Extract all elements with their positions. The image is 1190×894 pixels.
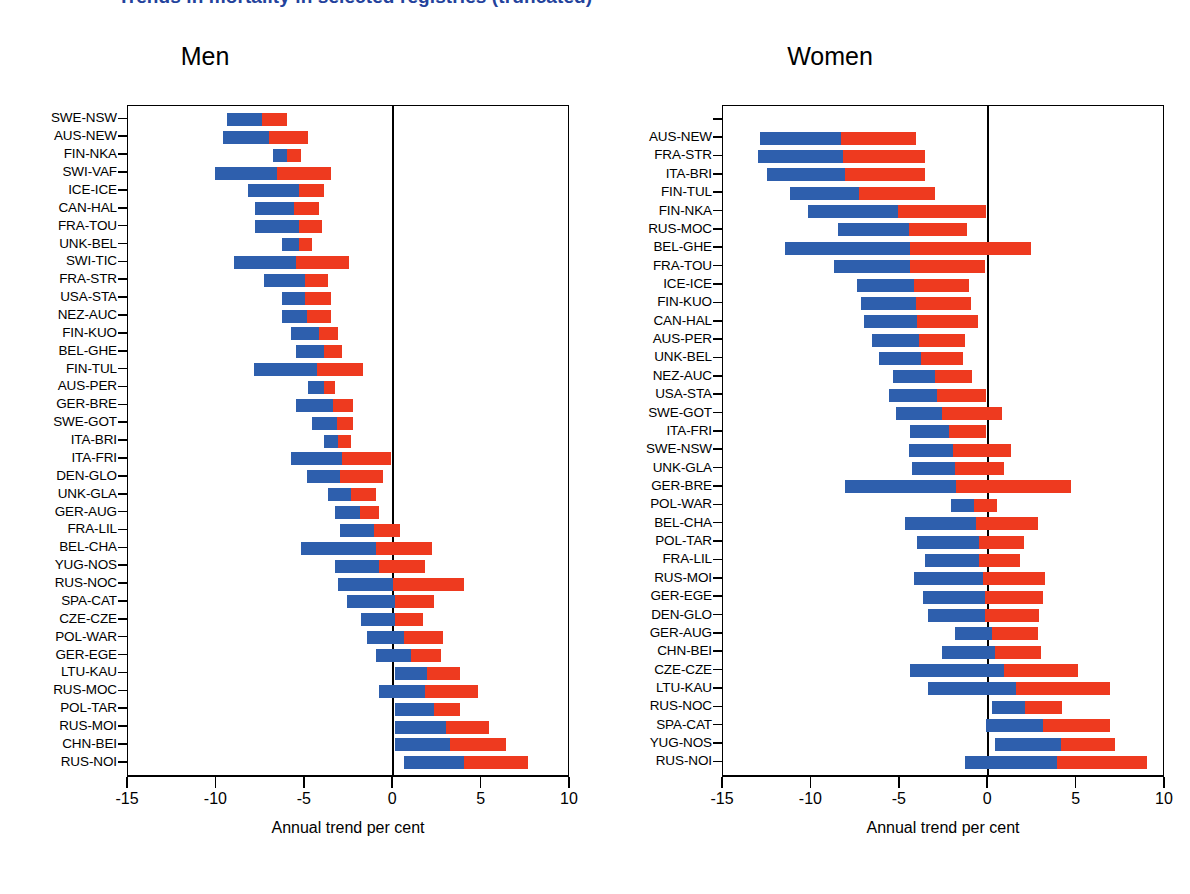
x-axis-tick-label: -15 [115,790,138,808]
bar-segment-blue [758,150,843,163]
y-axis-tick [118,582,127,584]
bar-segment-red [299,220,322,233]
bar-segment-blue [301,542,375,555]
y-axis-label: NEZ-AUC [58,308,117,321]
y-axis-tick [713,706,722,708]
y-axis-tick [118,296,127,298]
y-axis-label: RUS-MOI [59,719,117,732]
y-axis-tick [118,314,127,316]
y-axis-label: FIN-TUL [661,185,712,198]
bar-segment-red [324,381,335,394]
panel-men: Men SWE-NSWAUS-NEWFIN-NKASWI-VAFICE-ICEC… [5,22,585,882]
table-row [723,591,1163,604]
bar-segment-red [450,738,507,751]
bar-segment-red [976,517,1038,530]
bar-segment-blue [324,435,338,448]
y-axis-label: FRA-TOU [653,259,712,272]
bar-segment-red [338,435,350,448]
bar-segment-blue [395,667,427,680]
bar-segment-blue [942,646,995,659]
table-row [128,452,568,465]
y-axis-tick [118,421,127,423]
table-row [128,220,568,233]
bar-segment-blue [760,132,841,145]
y-axis-tick [118,511,127,513]
bar-segment-blue [338,578,393,591]
y-axis-tick [713,632,722,634]
y-axis-label: SWE-NSW [51,111,117,124]
bar-segment-red [859,187,935,200]
bar-segment-blue [395,738,450,751]
bar-segment-blue [223,131,269,144]
bar-segment-blue [889,389,937,402]
table-row [723,719,1163,732]
y-axis-tick [713,742,722,744]
y-axis-label: SWI-VAF [62,165,117,178]
bar-segment-blue [965,756,1057,769]
y-axis-label: SPA-CAT [61,594,117,607]
bar-segment-red [337,417,353,430]
y-axis-label: USA-STA [655,387,712,400]
bar-segment-blue [335,560,379,573]
bar-segment-blue [914,572,983,585]
table-row [128,488,568,501]
x-axis-tick-label: 5 [476,790,485,808]
y-axis-tick [118,457,127,459]
bar-segment-blue [912,462,954,475]
y-axis-tick [118,350,127,352]
x-axis-tick-label: -5 [297,790,311,808]
y-axis-tick [713,228,722,230]
y-axis-tick [713,357,722,359]
bar-segment-blue [838,223,909,236]
plot-area-men [127,105,569,777]
y-axis-label: FIN-TUL [66,362,117,375]
bar-segment-red [919,334,965,347]
bar-segment-blue [845,480,956,493]
table-row [723,444,1163,457]
bar-segment-blue [928,609,985,622]
table-row [128,274,568,287]
y-axis-label: FIN-NKA [64,147,117,160]
y-axis-label: FRA-TOU [58,219,117,232]
x-axis-tick [303,777,305,788]
bar-segment-blue [308,381,324,394]
table-row [128,470,568,483]
y-axis-tick [713,320,722,322]
x-axis-tick [126,777,128,788]
bar-rows-men [128,106,568,776]
bar-segment-blue [376,649,411,662]
y-axis-label: BEL-GHE [58,344,117,357]
bar-segment-red [843,150,924,163]
bar-segment-red [974,499,997,512]
y-axis-tick [713,393,722,395]
plot-area-women [722,105,1164,777]
bar-segment-blue [767,168,845,181]
y-axis-label: FIN-KUO [657,295,712,308]
y-axis-tick [713,155,722,157]
x-axis-tick [480,777,482,788]
y-axis-label: RUS-MOI [654,571,712,584]
table-row [128,649,568,662]
y-axis-tick [713,302,722,304]
bar-segment-blue [861,297,916,310]
bar-segment-blue [910,664,1004,677]
bar-segment-red [376,542,433,555]
bar-segment-red [305,292,332,305]
y-axis-label: UNK-GLA [653,461,712,474]
table-row [723,701,1163,714]
table-row [723,315,1163,328]
y-axis-tick [118,707,127,709]
y-axis-tick [118,761,127,763]
y-axis-label: RUS-MOC [648,222,712,235]
y-axis-tick [118,118,127,120]
y-axis-tick [713,761,722,763]
bar-segment-red [262,113,287,126]
table-row [128,167,568,180]
bar-segment-red [909,223,967,236]
y-axis-tick [118,725,127,727]
y-axis-tick [118,493,127,495]
x-axis-tick-label: 0 [983,790,992,808]
table-row [723,223,1163,236]
y-axis-label: CHN-BEI [657,644,712,657]
bar-segment-red [317,363,363,376]
